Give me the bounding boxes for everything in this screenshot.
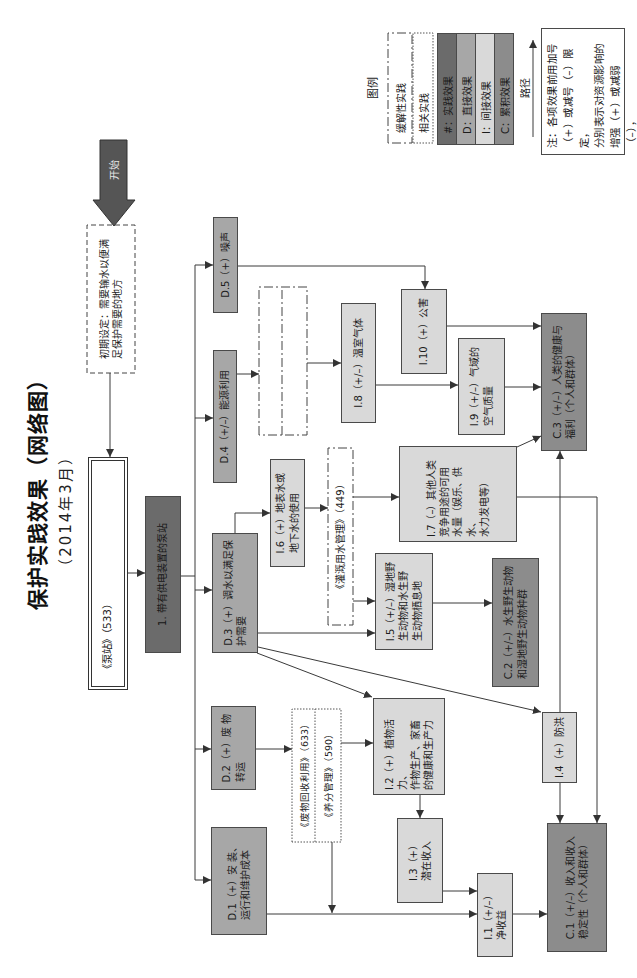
legend-indirect-effect: I：间接效果	[475, 33, 495, 145]
c3-label: C.3（+/–）人类的健康与 福利（个人和群体）	[551, 325, 577, 438]
start-label: 开始	[100, 144, 127, 196]
mitigating-practice-frame	[259, 287, 307, 435]
i3-label: I.3（+） 潜在收入	[407, 840, 433, 881]
i4-label: I.4（+）防洪	[553, 717, 566, 778]
legend-path-label: 路径	[517, 72, 531, 104]
conservation-practice-label: 《泵站》（533）	[101, 599, 115, 674]
d4-label: D.4（+/–）能源利用	[218, 370, 231, 464]
i5-label: I.5（+/–）湿地野 生动物和水生野 生动物栖息地	[384, 562, 424, 641]
indirect-effect-i2: I.2（+）植物活力、 作物生产、家畜 的健康和生产力	[373, 698, 445, 795]
indirect-effect-i7: I.7（–）其他人类 竞争用途的可用 水量（娱乐、供水、 水力发电等）	[399, 446, 517, 542]
i7-label: I.7（–）其他人类 竞争用途的可用 水量（娱乐、供水、 水力发电等）	[425, 451, 491, 537]
nutrient-management-label: 《养分管理》（590）	[315, 709, 341, 842]
direct-effect-d5: D.5（+）噪声	[213, 217, 238, 313]
cumulative-effect-c2: C.2（+/–）水生野生动物 和湿地野生动物种群	[492, 558, 539, 687]
network-diagram: 保护实践效果（网络图） （2014年3月） 开始 初期设定：需要输水以便满 足保…	[0, 0, 637, 978]
practice-effect-box: 1. 带有供电装置的泵站	[145, 496, 181, 653]
legend-practice-effect: #：实践效果	[437, 33, 457, 145]
legend-related-practice: 相关实践	[413, 33, 433, 143]
i9-label: I.9（+/–）气域的 空气质量	[468, 347, 494, 426]
conservation-practice-box: 《泵站》（533）	[88, 457, 128, 690]
irrigation-practice-box: 《灌溉用水管理》（449）	[328, 448, 353, 625]
arrow-d3-to-i6	[235, 513, 270, 533]
indirect-effect-i4: I.4（+）防洪	[542, 712, 577, 783]
indirect-effect-i6: I.6（+）地表水或 地下水的使用	[270, 459, 305, 567]
d1-label: D.1（+）安 装、 运行和维护成本	[226, 842, 252, 921]
c1-label: C.1（+/–）收入和收入 稳定性（个人和群体）	[564, 836, 590, 939]
indirect-effect-i1: I.1（+/–） 净收益	[477, 873, 513, 957]
legend-mitigating-practice: 缓解性实践	[388, 33, 412, 143]
d3-label: D.3（+）调水以满足保 护需要	[222, 540, 248, 646]
arrow-i7-to-c3	[517, 436, 541, 447]
d2-label: D.2（+）废 物 转运	[220, 714, 246, 783]
cumulative-effect-c3: C.3（+/–）人类的健康与 福利（个人和群体）	[541, 313, 587, 451]
legend-cumulative-effect: C：累积效果	[494, 33, 514, 145]
indirect-effect-i9: I.9（+/–）气域的 空气质量	[458, 338, 505, 435]
i8-label: I.8（+/–）温室气体	[352, 318, 365, 407]
waste-recycling-label: 《废物回收利用》（633）	[292, 709, 315, 842]
i6-label: I.6（+）地表水或 地下水的使用	[274, 473, 300, 554]
direct-effect-d2: D.2（+）废 物 转运	[211, 706, 256, 790]
initial-setting-box: 初期设定：需要输水以便满 足保护需要的地方	[87, 225, 135, 373]
cumulative-effect-c1: C.1（+/–）收入和收入 稳定性（个人和群体）	[547, 823, 607, 952]
direct-effect-d3: D.3（+）调水以满足保 护需要	[212, 533, 258, 653]
legend-title: 图例	[364, 72, 379, 104]
irrigation-practice-label: 《灌溉用水管理》（449）	[334, 479, 347, 593]
arrow-d5-to-i10	[238, 266, 425, 289]
legend-direct-effect: D：直接效果	[456, 33, 476, 145]
direct-effect-d1: D.1（+）安 装、 运行和维护成本	[211, 827, 267, 935]
indirect-effect-i5: I.5（+/–）湿地野 生动物和水生野 生动物栖息地	[375, 553, 433, 650]
indirect-effect-i3: I.3（+） 潜在收入	[397, 818, 443, 903]
related-practices-box: 《废物回收利用》（633） 《养分管理》（590）	[292, 709, 341, 842]
i2-label: I.2（+）植物活力、 作物生产、家畜 的健康和生产力	[383, 703, 436, 790]
direct-effect-d4: D.4（+/–）能源利用	[213, 350, 237, 483]
page-subtitle: （2014年3月）	[54, 432, 72, 590]
page-title: 保护实践效果（网络图）	[21, 377, 47, 610]
initial-setting-text: 初期设定：需要输水以便满 足保护需要的地方	[98, 239, 124, 359]
i1-label: I.1（+/–） 净收益	[482, 890, 508, 939]
c2-label: C.2（+/–）水生野生动物 和湿地野生动物种群	[502, 566, 528, 679]
legend-note: 注：各项效果前用加号 （+）或减号（–）限定， 分别表示对资源影响的 增强（+）…	[541, 28, 625, 155]
i10-label: I.10（+）公害	[417, 298, 430, 365]
indirect-effect-i8: I.8（+/–）温室气体	[341, 303, 376, 423]
d5-label: D.5（+）噪声	[219, 232, 232, 298]
indirect-effect-i10: I.10（+）公害	[401, 289, 447, 374]
practice-effect-label: 1. 带有供电装置的泵站	[156, 523, 169, 626]
legend-effect-swatches: #：实践效果 D：直接效果 I：间接效果 C：累积效果	[437, 33, 514, 145]
